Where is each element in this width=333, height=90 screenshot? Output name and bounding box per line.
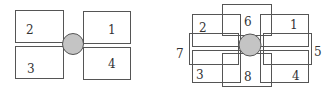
block-label: 4 — [108, 57, 116, 71]
block-label: 5 — [314, 45, 322, 59]
block-7 — [190, 34, 239, 65]
block-2 — [16, 11, 64, 43]
block-label: 8 — [244, 70, 252, 84]
block-label: 1 — [290, 18, 298, 32]
hub-circle — [239, 34, 261, 56]
block-layout-diagrams: 213421675348 — [0, 0, 333, 90]
block-label: 6 — [244, 15, 252, 29]
block-label: 3 — [196, 68, 204, 82]
block-4 — [261, 51, 309, 83]
block-label: 3 — [27, 62, 35, 76]
block-1 — [261, 15, 309, 47]
block-label: 4 — [292, 69, 300, 83]
block-label: 2 — [26, 23, 34, 37]
four-block-diagram: 2134 — [16, 11, 131, 80]
block-5 — [264, 34, 312, 65]
hub-circle — [63, 34, 84, 55]
eight-block-diagram: 21675348 — [176, 5, 322, 87]
block-label: 2 — [199, 21, 207, 35]
block-label: 7 — [176, 47, 184, 61]
block-4 — [84, 48, 131, 80]
block-1 — [84, 12, 131, 44]
block-3 — [16, 47, 64, 79]
block-label: 1 — [108, 23, 116, 37]
